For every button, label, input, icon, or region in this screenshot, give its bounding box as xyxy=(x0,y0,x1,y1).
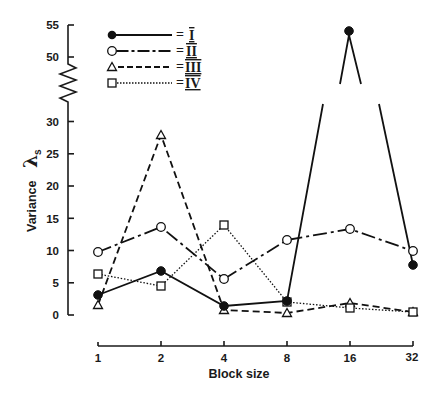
open-square-icon xyxy=(108,79,116,87)
legend-equals: = xyxy=(176,75,184,90)
lambda-symbol: λ xyxy=(19,155,41,168)
y-tick-0: 0 xyxy=(53,309,59,321)
y-tick-5: 5 xyxy=(53,277,60,289)
y-tick-15: 15 xyxy=(46,213,59,225)
legend-item-III: = III xyxy=(108,59,202,75)
y-tick-labels: 0 5 10 15 20 25 30 50 55 xyxy=(46,19,59,321)
lambda-subscript: s xyxy=(32,149,43,155)
legend-label-IV: IV xyxy=(185,76,201,91)
y-tick-10: 10 xyxy=(46,245,59,257)
y-axis xyxy=(60,25,76,315)
legend-item-IV: = IV xyxy=(108,75,201,91)
open-circle-icon xyxy=(108,47,117,56)
legend-item-II: = II xyxy=(108,43,197,59)
legend: = I = II = III = IV xyxy=(108,27,202,91)
y-axis-title-text: Variance xyxy=(25,181,39,232)
y-tick-50: 50 xyxy=(46,51,59,63)
x-axis-title: Block size xyxy=(208,367,269,381)
series-III-markers xyxy=(94,131,418,317)
series-II-line xyxy=(98,227,413,279)
series-I-line-lower xyxy=(98,104,323,306)
open-triangle-icon xyxy=(108,63,117,71)
legend-equals: = xyxy=(176,43,184,58)
series-III-line xyxy=(98,135,413,313)
y-tick-55: 55 xyxy=(46,19,59,31)
filled-circle-icon xyxy=(108,31,117,40)
x-tick-16: 16 xyxy=(344,352,357,364)
series-II-markers xyxy=(94,223,418,284)
y-tick-25: 25 xyxy=(46,148,59,160)
series-I-line-upper xyxy=(340,35,361,84)
legend-label-I: I xyxy=(189,28,194,43)
x-axis xyxy=(98,341,413,346)
legend-label-II: II xyxy=(186,44,197,59)
legend-equals: = xyxy=(176,27,184,42)
x-tick-8: 8 xyxy=(284,352,291,364)
axis-break-zigzag xyxy=(60,57,76,107)
series-IV-line xyxy=(98,225,413,312)
legend-label-III: III xyxy=(185,60,201,75)
series-I-markers xyxy=(94,27,418,311)
x-tick-4: 4 xyxy=(221,352,228,364)
legend-item-I: = I xyxy=(108,27,195,43)
x-tick-labels: 1 2 4 8 16 32 xyxy=(95,351,419,364)
y-tick-30: 30 xyxy=(46,116,59,128)
x-tick-32: 32 xyxy=(406,351,419,363)
legend-equals: = xyxy=(176,59,184,74)
y-tick-20: 20 xyxy=(46,180,59,192)
y-axis-title: Variance λ s xyxy=(19,149,43,232)
variance-line-chart: 0 5 10 15 20 25 30 50 55 Variance λ s 1 … xyxy=(0,0,439,395)
x-tick-2: 2 xyxy=(158,352,164,364)
series-I-line-lower-right xyxy=(379,104,413,265)
x-tick-1: 1 xyxy=(95,352,102,364)
